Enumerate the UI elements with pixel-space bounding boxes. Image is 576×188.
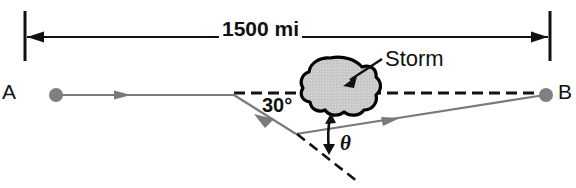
point-a-dot xyxy=(49,88,63,102)
flight-path-diagram: 1500 mi A B Storm 30° θ xyxy=(0,0,576,188)
angle-theta-label: θ xyxy=(340,133,351,154)
theta-angle-arc xyxy=(323,113,336,155)
storm-cloud xyxy=(301,57,380,115)
flight-leg-a-to-bend xyxy=(56,91,234,100)
storm-blob-shape xyxy=(301,57,380,115)
point-a-label: A xyxy=(2,81,16,102)
dimension-arrowhead-right xyxy=(531,32,548,43)
leg3-arrowhead xyxy=(381,117,400,126)
point-b-dot xyxy=(539,88,553,102)
theta-arc-arrowhead-bottom xyxy=(323,144,335,155)
leg1-arrowhead xyxy=(114,91,131,100)
leg2-arrowhead xyxy=(254,114,274,128)
dimension-arrowhead-left xyxy=(27,32,44,43)
distance-label: 1500 mi xyxy=(219,18,302,39)
point-b-label: B xyxy=(558,81,572,102)
angle-30-label: 30° xyxy=(262,95,292,115)
storm-label: Storm xyxy=(385,48,444,70)
